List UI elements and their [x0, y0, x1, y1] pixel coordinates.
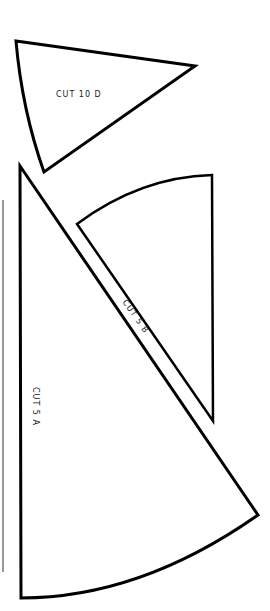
pattern-piece-d	[16, 41, 195, 172]
pattern-sheet	[0, 0, 270, 611]
pattern-piece-a	[20, 166, 258, 598]
piece-d-label: CUT 10 D	[56, 90, 102, 99]
piece-a-label: CUT 5 A	[31, 387, 40, 426]
pattern-piece-b	[77, 175, 213, 421]
